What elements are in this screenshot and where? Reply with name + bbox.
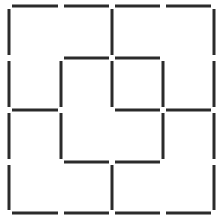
matchstick-puzzle [0, 0, 224, 224]
matchstick-grid [0, 0, 224, 224]
